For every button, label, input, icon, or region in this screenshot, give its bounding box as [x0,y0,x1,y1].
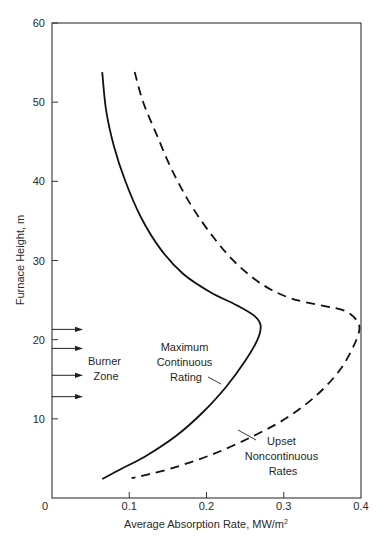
x-axis-ticks: 00.10.20.30.4 [42,492,369,512]
y-tick-label: 10 [33,413,45,425]
x-tick-label: 0.2 [199,500,214,512]
burner-zone-label: Burner Zone [88,355,124,382]
x-tick-label: 0.1 [122,500,137,512]
max-continuous-rating-curve [102,72,261,479]
arrow-head-icon [75,394,83,399]
furnace-absorption-chart: 102030405060 00.10.20.30.4 Furnace Heigh… [0,0,385,544]
y-axis-title: Furnace Height, m [14,215,26,305]
data-series [102,72,359,479]
plot-frame [52,23,361,498]
x-tick-label: 0.3 [276,500,291,512]
y-tick-label: 40 [33,175,45,187]
y-axis-ticks: 102030405060 [33,17,58,425]
mcr-label: Maximum Continuous Rating [157,341,216,383]
y-tick-label: 30 [33,255,45,267]
mcr-leader-line [208,377,221,384]
arrow-head-icon [75,346,83,351]
y-tick-label: 50 [33,96,45,108]
y-tick-label: 20 [33,334,45,346]
plot-border [52,23,361,498]
arrow-head-icon [75,373,83,378]
x-axis-title: Average Absorption Rate, MW/m2 [124,518,288,530]
burner-zone-arrows [52,327,83,399]
arrow-head-icon [75,327,83,332]
x-tick-label: 0 [42,500,48,512]
upset-label: Upset Noncontinuous Rates [245,435,321,477]
upset-noncontinuous-curve [132,72,360,478]
y-tick-label: 60 [33,17,45,29]
x-tick-label: 0.4 [353,500,368,512]
